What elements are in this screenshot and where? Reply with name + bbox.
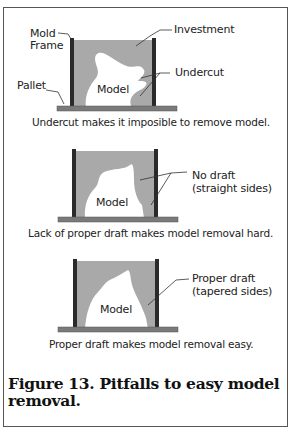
pallet (57, 106, 177, 111)
straight-sides-label: (straight sides) (192, 183, 272, 195)
panel2-caption: Lack of proper draft makes model removal… (28, 227, 273, 239)
model-label: Model (97, 84, 129, 96)
pallet (58, 217, 178, 222)
proper-draft-label: Proper draft (192, 273, 255, 285)
mold-frame-left (72, 149, 76, 219)
pallet (58, 327, 178, 332)
mold-frame-left (73, 259, 77, 330)
mold-frame-right (152, 38, 156, 109)
pallet-label: Pallet (17, 80, 46, 92)
mold-frame-right (154, 149, 158, 219)
investment-label: Investment (174, 24, 234, 36)
mold-frame-right (155, 259, 159, 330)
model-label: Model (100, 304, 132, 316)
panel3-caption: Proper draft makes model removal easy. (49, 338, 253, 350)
panel-undercut (46, 30, 177, 111)
tapered-sides-label: (tapered sides) (192, 286, 272, 298)
no-draft-label: No draft (192, 170, 235, 182)
frame-label-line2: Frame (30, 40, 63, 52)
panel1-caption: Undercut makes it imposible to remove mo… (32, 116, 270, 128)
mold-frame-left (70, 38, 74, 109)
panel-proper-draft (58, 259, 189, 332)
model-label: Model (96, 197, 128, 209)
figure-caption: Figure 13. Pitfalls to easy model remova… (8, 375, 298, 409)
undercut-label: Undercut (175, 67, 224, 79)
panel-no-draft (58, 149, 187, 222)
pallet-leader (46, 90, 64, 104)
